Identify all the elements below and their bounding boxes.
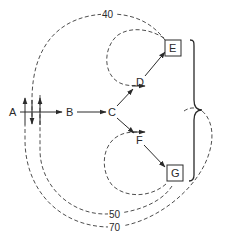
node-g-label: G <box>171 167 180 179</box>
node-a-label: A <box>9 106 17 118</box>
node-b-label: B <box>66 106 73 118</box>
edge-d-e <box>145 52 165 76</box>
grouping-brace <box>189 40 202 181</box>
path-label-40: 40 <box>102 9 114 20</box>
edge-c-f <box>117 118 134 133</box>
edge-f-g <box>144 145 165 167</box>
path-label-70: 70 <box>109 222 121 233</box>
path-label-50: 50 <box>109 209 121 220</box>
dashed-path-50 <box>40 95 172 214</box>
node-d-label: D <box>136 76 144 88</box>
node-f-label: F <box>136 134 143 146</box>
node-e-label: E <box>169 42 176 54</box>
edge-c-d <box>117 89 133 106</box>
node-c-label: C <box>108 106 116 118</box>
flow-diagram: A B C D E F G 40 50 70 <box>0 0 228 241</box>
